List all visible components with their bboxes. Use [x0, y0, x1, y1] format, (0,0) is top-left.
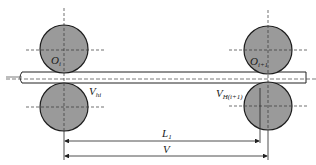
- label-vhi: Vhi: [89, 85, 101, 99]
- label-vhi1: VH(i+1): [216, 87, 243, 101]
- rolling-mill-diagram: Oi Oi+1 Vhi VH(i+1) L1 V: [0, 0, 316, 165]
- label-v: V: [163, 143, 171, 155]
- label-l1: L1: [161, 127, 172, 141]
